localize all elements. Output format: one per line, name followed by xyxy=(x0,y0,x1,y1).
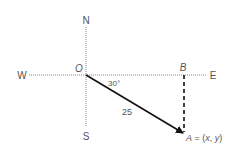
vector-oa xyxy=(86,75,183,133)
origin-label: O xyxy=(75,63,83,74)
point-a-name: A xyxy=(185,133,192,143)
length-label: 25 xyxy=(122,107,132,117)
west-label: W xyxy=(17,70,27,81)
vector-diagram: N S W E O B 30° 25 A = (x, y) xyxy=(0,0,235,152)
point-a-label: A = (x, y) xyxy=(185,133,222,143)
point-a-close: ) xyxy=(219,133,222,143)
diagram-svg: N S W E O B 30° 25 A = (x, y) xyxy=(0,0,235,152)
north-label: N xyxy=(82,15,89,26)
point-a-eq: = ( xyxy=(192,133,205,143)
angle-label: 30° xyxy=(108,79,120,88)
east-label: E xyxy=(210,70,217,81)
south-label: S xyxy=(83,131,90,142)
point-b-label: B xyxy=(180,62,187,73)
